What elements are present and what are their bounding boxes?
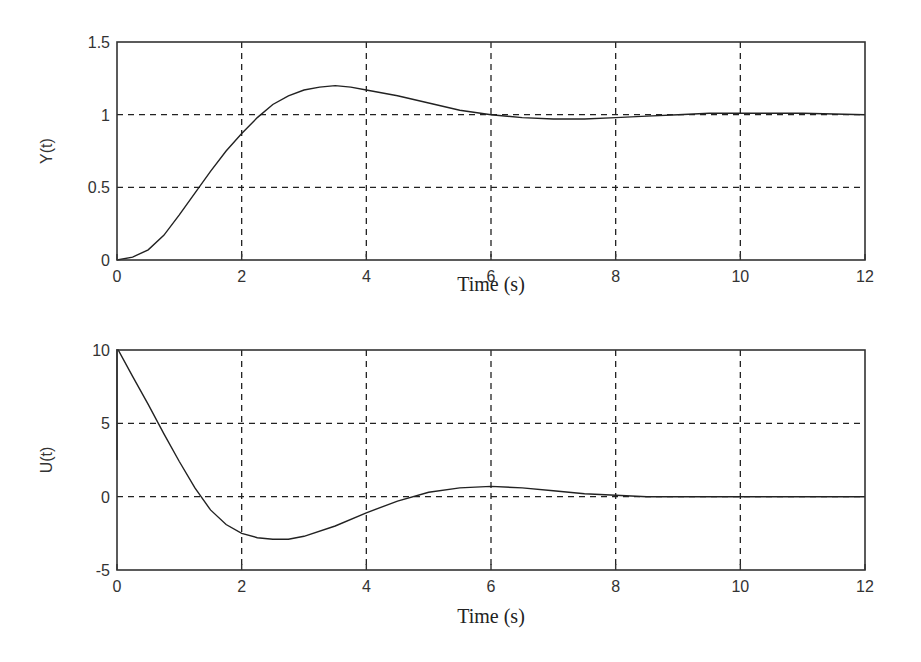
x-tick-label: 0 [113,578,122,595]
x-tick-label: 2 [237,268,246,285]
x-tick-label: 8 [611,578,620,595]
y-tick-label: 0.5 [88,179,110,196]
bottom-plot-curve-u [117,350,865,539]
x-tick-label: 10 [731,268,749,285]
top-plot-frame [117,42,865,260]
bottom-plot-y-ticks: -50510 [92,342,110,579]
top-plot-x-label: Time (s) [457,273,525,296]
x-tick-label: 10 [731,578,749,595]
y-tick-label: -5 [96,562,110,579]
figure: 024681012 00.511.5 Time (s) Y(t) 0246810… [0,0,921,662]
bottom-plot-axes: 024681012 -50510 Time (s) U(t) [38,342,874,628]
x-tick-label: 4 [362,268,371,285]
bottom-plot-x-label: Time (s) [457,605,525,628]
y-tick-label: 1 [101,107,110,124]
bottom-plot-grid [117,350,865,570]
x-tick-label: 0 [113,268,122,285]
x-tick-label: 2 [237,578,246,595]
top-plot-y-ticks: 00.511.5 [88,34,110,269]
y-tick-label: 0 [101,252,110,269]
y-tick-label: 0 [101,489,110,506]
top-plot-axes: 024681012 00.511.5 Time (s) Y(t) [38,34,874,296]
y-tick-label: 10 [92,342,110,359]
top-plot-grid [117,42,865,260]
x-tick-label: 12 [856,578,874,595]
bottom-plot-x-ticks: 024681012 [113,564,874,595]
x-tick-label: 8 [611,268,620,285]
y-tick-label: 1.5 [88,34,110,51]
x-tick-label: 4 [362,578,371,595]
bottom-plot-y-label: U(t) [38,447,55,474]
y-tick-label: 5 [101,415,110,432]
x-tick-label: 6 [487,578,496,595]
x-tick-label: 12 [856,268,874,285]
top-plot-y-label: Y(t) [38,138,55,164]
